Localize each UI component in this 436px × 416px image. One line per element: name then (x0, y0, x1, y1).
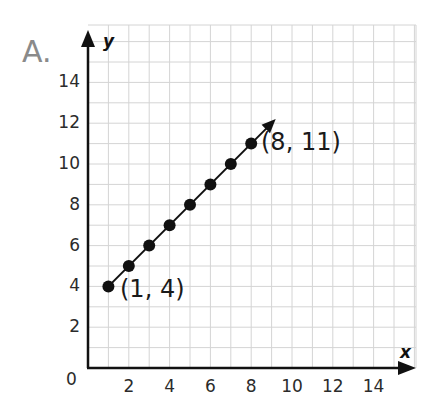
y-tick-label: 12 (50, 114, 80, 131)
data-point (225, 158, 237, 170)
data-point (184, 199, 196, 211)
data-point (143, 240, 155, 252)
y-axis-label: y (103, 33, 114, 50)
data-point (102, 280, 114, 292)
x-tick-label: 4 (155, 378, 185, 395)
x-axis-label: x (400, 344, 411, 361)
data-point (123, 260, 135, 272)
x-tick-label: 8 (236, 378, 266, 395)
x-tick-label: 6 (195, 378, 225, 395)
y-tick-label: 6 (50, 237, 80, 254)
coordinate-plane-figure: A. 246810121424681012140yx(1, 4)(8, 11) (0, 0, 436, 416)
y-tick-label: 8 (50, 196, 80, 213)
x-tick-label: 10 (277, 378, 307, 395)
y-tick-label: 2 (50, 318, 80, 335)
x-tick-label: 14 (359, 378, 389, 395)
data-point (245, 138, 257, 150)
x-tick-label: 12 (318, 378, 348, 395)
y-axis-arrow-icon (81, 30, 95, 47)
origin-label: 0 (66, 371, 77, 388)
point-annotation-start: (1, 4) (120, 277, 185, 301)
data-point (164, 219, 176, 231)
data-point (204, 178, 216, 190)
y-tick-label: 14 (50, 73, 80, 90)
y-tick-label: 4 (50, 277, 80, 294)
point-annotation-end: (8, 11) (261, 130, 341, 154)
x-tick-label: 2 (114, 378, 144, 395)
y-tick-label: 10 (50, 155, 80, 172)
x-axis-arrow-icon (398, 361, 416, 375)
